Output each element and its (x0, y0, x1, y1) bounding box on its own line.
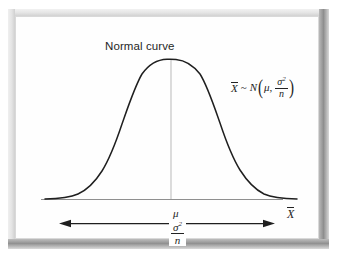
spread-arrow (59, 220, 275, 227)
x-axis-label-symbol: X (287, 207, 294, 220)
formula-variance-numerator: σ2 (275, 76, 287, 88)
spread-annotation-label: σ2 n (169, 221, 186, 246)
formula-tilde: ~ (238, 82, 250, 93)
spread-variance-fraction: σ2 n (169, 221, 186, 246)
figure-frame: Normal curve X ~ N ( μ , σ2 n ) μ X σ2 (8, 9, 329, 249)
formula-distribution-symbol: N (250, 82, 257, 93)
frame-shadow-right (319, 9, 329, 249)
spread-variance-numerator: σ2 (171, 221, 184, 233)
frame-bevel-top (8, 9, 329, 16)
spread-sigma-exponent: 2 (178, 220, 182, 228)
formula-close-paren: ) (289, 80, 294, 95)
spread-variance-denominator: n (173, 234, 183, 246)
frame-bevel-left (8, 9, 15, 249)
mean-tick-label: μ (173, 208, 179, 219)
distribution-formula: X ~ N ( μ , σ2 n ) (231, 76, 295, 99)
x-axis-label: X (287, 207, 294, 220)
chart-title: Normal curve (105, 41, 175, 53)
sigma-exponent: 2 (282, 75, 286, 83)
formula-statistic-symbol: X (231, 82, 238, 94)
formula-open-paren: ( (258, 80, 263, 95)
formula-variance-denominator: n (277, 89, 286, 100)
formula-variance-fraction: σ2 n (275, 76, 287, 99)
normal-curve-plot: Normal curve X ~ N ( μ , σ2 n ) μ X σ2 (15, 16, 319, 239)
